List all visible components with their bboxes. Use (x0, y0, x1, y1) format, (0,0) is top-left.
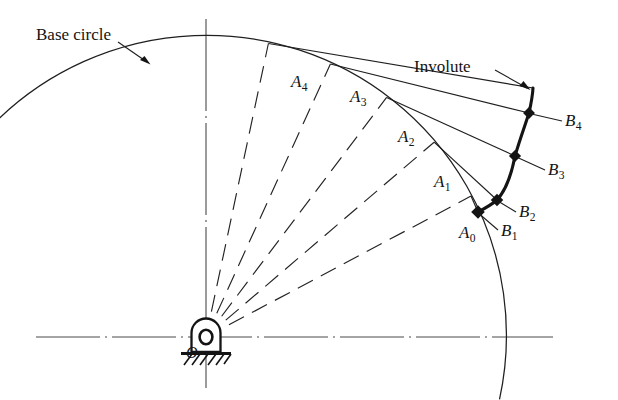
leader-B2 (500, 202, 517, 212)
point-marker-B4 (523, 107, 535, 119)
point-label-B2-letter: B (519, 202, 529, 221)
involute-leader-arrowhead (520, 81, 531, 90)
point-label-A3: A3 (350, 88, 367, 108)
point-label-A4-subscript: 4 (301, 81, 307, 94)
radii-group (206, 44, 471, 338)
point-label-B2-subscript: 2 (529, 211, 535, 224)
involute-annotation-leader (495, 70, 531, 90)
involute-curve (478, 88, 533, 212)
involute-label: Involute (414, 58, 471, 75)
point-label-A1: A1 (434, 173, 451, 193)
involute-construction-figure: Base circle Involute O A4 A3 A2 A1 A0 B1… (0, 0, 618, 400)
point-label-B4: B4 (565, 112, 582, 132)
point-label-A1-subscript: 1 (444, 181, 450, 194)
point-label-A4: A4 (291, 73, 308, 93)
radius-O-A2 (206, 97, 387, 337)
base-circle-label: Base circle (36, 26, 111, 43)
leader-B3 (518, 158, 546, 171)
radius-O-A4 (206, 44, 268, 338)
point-label-B3-letter: B (548, 160, 558, 179)
base-circle-leader-arrowhead (140, 56, 151, 65)
point-label-A3-letter: A (350, 87, 360, 106)
point-label-B1-letter: B (501, 221, 511, 240)
radius-O-A3 (206, 64, 330, 337)
point-label-A2-letter: A (398, 127, 408, 146)
leader-B4 (532, 114, 563, 121)
point-label-A0-letter: A (459, 223, 469, 242)
center-label-O: O (186, 345, 198, 361)
radius-O-A1 (206, 142, 434, 337)
point-label-A0-subscript: 0 (469, 232, 475, 245)
point-label-A0: A0 (459, 224, 476, 244)
pivot-pin-hole (200, 330, 213, 344)
point-label-B1-subscript: 1 (511, 230, 517, 243)
point-label-B2: B2 (519, 203, 536, 223)
point-label-A1-letter: A (434, 172, 444, 191)
leader-B1 (480, 215, 498, 231)
base-circle-annotation-leader (118, 42, 151, 65)
point-label-B4-letter: B (565, 111, 575, 130)
point-label-A4-letter: A (291, 72, 301, 91)
point-label-B3: B3 (548, 161, 565, 181)
point-marker-B3 (509, 150, 521, 162)
point-label-A3-subscript: 3 (360, 96, 366, 109)
point-label-A2: A2 (398, 128, 415, 148)
radius-O-A0 (206, 196, 471, 337)
point-label-B3-subscript: 3 (558, 169, 564, 182)
point-label-A2-subscript: 2 (408, 136, 414, 149)
figure-canvas (0, 0, 618, 400)
point-label-B4-subscript: 4 (575, 120, 581, 133)
point-label-B1: B1 (501, 222, 518, 242)
base-circle-arc (0, 35, 506, 399)
